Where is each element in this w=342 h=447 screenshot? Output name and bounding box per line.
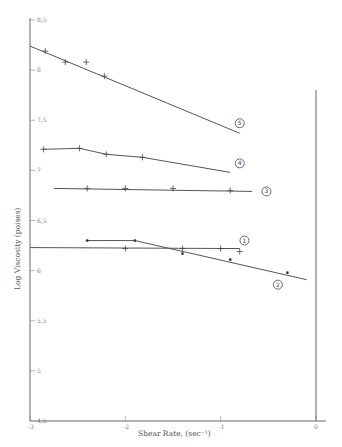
y-tick-label: 7 xyxy=(37,166,41,173)
curve-line xyxy=(30,248,240,249)
y-axis-title: Log Viscosity (poises) xyxy=(13,207,22,290)
y-tick-label: 5,5 xyxy=(37,317,47,324)
curve-label-number: 3 xyxy=(265,187,269,194)
x-tick-label: -1 xyxy=(219,423,225,430)
data-point-cross xyxy=(218,246,224,252)
x-tick-label: -3 xyxy=(28,423,34,430)
series-curve-2: 2 xyxy=(86,239,307,289)
data-point-cross xyxy=(84,185,90,191)
data-point-cross xyxy=(83,59,89,65)
data-point-dot xyxy=(181,252,184,255)
x-tick-label: -2 xyxy=(123,423,129,430)
curve-label-number: 2 xyxy=(276,281,280,288)
series-group: 12345 xyxy=(30,46,306,289)
data-point-cross xyxy=(227,187,233,193)
y-tick-label: 6 xyxy=(37,267,41,274)
x-axis-title: Shear Rate, (sec⁻¹) xyxy=(138,429,211,438)
data-point-cross xyxy=(139,154,145,160)
x-tick-label: 0 xyxy=(314,423,318,430)
data-point-dot xyxy=(133,239,136,242)
data-point-dot xyxy=(86,239,89,242)
series-curve-4: 4 xyxy=(40,145,244,172)
y-tick-label: 6,5 xyxy=(37,217,47,224)
y-tick-label: 4,5 xyxy=(37,417,47,424)
curve-label-number: 4 xyxy=(238,159,242,166)
series-curve-5: 5 xyxy=(30,46,244,133)
y-tick-label: 8,5 xyxy=(37,16,47,23)
series-curve-1: 1 xyxy=(30,236,249,255)
y-tick-label: 8 xyxy=(37,66,41,73)
data-point-cross xyxy=(122,246,128,252)
series-curve-3: 3 xyxy=(54,185,271,196)
data-point-cross xyxy=(237,249,243,255)
data-point-dot xyxy=(229,258,232,261)
curve-line xyxy=(30,46,240,133)
data-point-cross xyxy=(77,145,83,151)
data-point-cross xyxy=(103,151,109,157)
y-tick-label: 5 xyxy=(37,367,41,374)
curve-line xyxy=(54,188,252,191)
data-point-cross xyxy=(40,146,46,152)
data-point-cross xyxy=(122,185,128,191)
viscosity-chart: 4,555,566,577,588,5-3-2-10 12345 Shear R… xyxy=(0,0,342,447)
curve-line xyxy=(43,148,230,172)
curve-label-number: 1 xyxy=(243,237,247,244)
curve-line xyxy=(87,241,306,280)
axes: 4,555,566,577,588,5-3-2-10 xyxy=(28,16,326,430)
data-point-dot xyxy=(286,271,289,274)
y-tick-label: 7,5 xyxy=(37,116,47,123)
curve-label-number: 5 xyxy=(238,119,242,126)
